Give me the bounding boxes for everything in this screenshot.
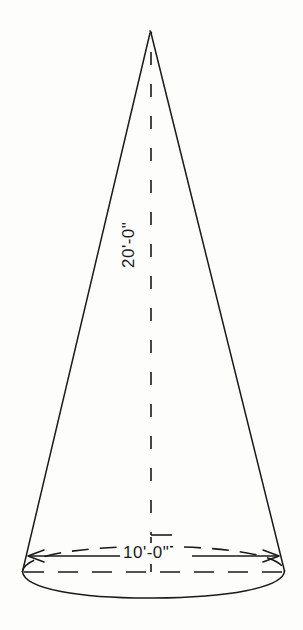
cone-base-front-arc: [23, 571, 285, 598]
diameter-dimension-label: 10'-0": [122, 543, 170, 563]
height-dimension-label: 20'-0": [119, 222, 139, 268]
technical-drawing-canvas: 20'-0" 10'-0": [0, 0, 303, 630]
cone-right-slant-line: [151, 33, 285, 571]
cone-left-slant-line: [23, 33, 151, 572]
cone-diagram-svg: [0, 0, 303, 630]
